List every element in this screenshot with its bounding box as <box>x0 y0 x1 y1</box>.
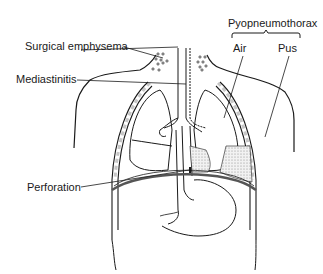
label-mediastinitis: Mediastinitis <box>16 73 77 85</box>
stomach-inner <box>160 212 178 216</box>
pyopneumothorax-brace <box>232 30 300 38</box>
ribs-left <box>112 82 152 240</box>
label-pyopneumothorax: Pyopneumothorax <box>228 17 318 29</box>
diagram-svg: Surgical emphysema Mediastinitis Perfora… <box>0 0 323 274</box>
lower-body-left <box>112 240 116 270</box>
label-pus: Pus <box>278 42 297 54</box>
stomach <box>162 180 236 236</box>
anatomical-diagram: Surgical emphysema Mediastinitis Perfora… <box>0 0 323 274</box>
body-outline <box>74 55 294 152</box>
label-perforation: Perforation <box>27 181 81 193</box>
lower-body-right <box>255 240 256 270</box>
label-air: Air <box>233 42 247 54</box>
perforation-site <box>189 167 191 173</box>
emphysema-dots-right <box>197 56 207 71</box>
label-surgical-emphysema: Surgical emphysema <box>25 40 129 52</box>
perforation-fluid-region <box>190 146 210 172</box>
